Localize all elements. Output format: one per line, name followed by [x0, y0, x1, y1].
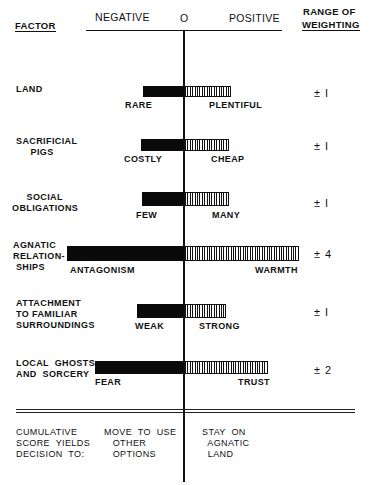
pos-label-ghosts: TRUST [238, 377, 270, 387]
pos-label-pigs: CHEAP [211, 154, 245, 164]
neg-label-social: FEW [136, 210, 157, 220]
range-attachment: ± I [314, 306, 329, 318]
pos-label-land: PLENTIFUL [209, 100, 262, 110]
divider-line-bottom [16, 412, 355, 413]
bar-negative-land [143, 86, 184, 97]
bar-positive-ghosts [184, 361, 268, 374]
range-ghosts: ± 2 [314, 364, 332, 376]
range-value: ± 2 [314, 364, 332, 376]
bar-negative-social [142, 192, 184, 206]
bar-negative-agnatic [67, 246, 184, 261]
footer-negative-outcome: MOVE TO USE OTHER OPTIONS [104, 427, 176, 460]
footer-positive-outcome: STAY ON AGNATIC LAND [202, 427, 249, 460]
pos-label-agnatic: WARMTH [255, 265, 298, 275]
range-header-line1: RANGE OF [303, 6, 356, 17]
factor-land: LAND [16, 84, 43, 95]
bar-positive-pigs [184, 139, 229, 151]
bar-negative-ghosts [95, 361, 184, 374]
footer-label: CUMULATIVE SCORE YIELDS DECISION TO: [16, 427, 90, 460]
pos-label-attachment: STRONG [199, 321, 240, 331]
factor-local-ghosts: LOCAL GHOSTS AND SORCERY [16, 358, 95, 380]
bar-positive-land [184, 86, 231, 97]
positive-header: POSITIVE [229, 12, 280, 24]
neg-label-pigs: COSTLY [124, 154, 162, 164]
range-value: ± I [314, 306, 329, 318]
bar-positive-agnatic [184, 246, 299, 261]
range-agnatic: ± 4 [314, 248, 332, 260]
range-value: ± 4 [314, 248, 332, 260]
factor-agnatic-relationships: AGNATIC RELATION- SHIPS [13, 240, 65, 273]
zero-header: O [180, 12, 188, 24]
neg-label-land: RARE [125, 100, 152, 110]
range-pigs: ± I [314, 140, 329, 152]
range-land: ± I [314, 87, 329, 99]
divider-line-top [16, 409, 355, 410]
bar-positive-social [184, 192, 229, 206]
neg-label-attachment: WEAK [135, 321, 164, 331]
neg-label-ghosts: FEAR [95, 377, 121, 387]
bar-negative-attachment [137, 304, 184, 318]
range-header-line2: WEIGHTING [302, 19, 360, 31]
factor-header: FACTOR [15, 20, 56, 32]
negative-header: NEGATIVE [95, 11, 150, 23]
bar-positive-attachment [184, 304, 226, 318]
factor-sacrificial-pigs: SACRIFICIAL PIGS [16, 136, 77, 158]
range-value: ± I [314, 140, 329, 152]
factor-social-obligations: SOCIAL OBLIGATIONS [12, 192, 78, 214]
range-social: ± I [314, 197, 329, 209]
range-value: ± I [314, 87, 329, 99]
neg-label-agnatic: ANTAGONISM [70, 265, 135, 275]
factor-attachment: ATTACHMENT TO FAMILIAR SURROUNDINGS [16, 298, 95, 331]
pos-label-social: MANY [212, 210, 240, 220]
range-value: ± I [314, 197, 329, 209]
bar-negative-pigs [141, 139, 184, 151]
